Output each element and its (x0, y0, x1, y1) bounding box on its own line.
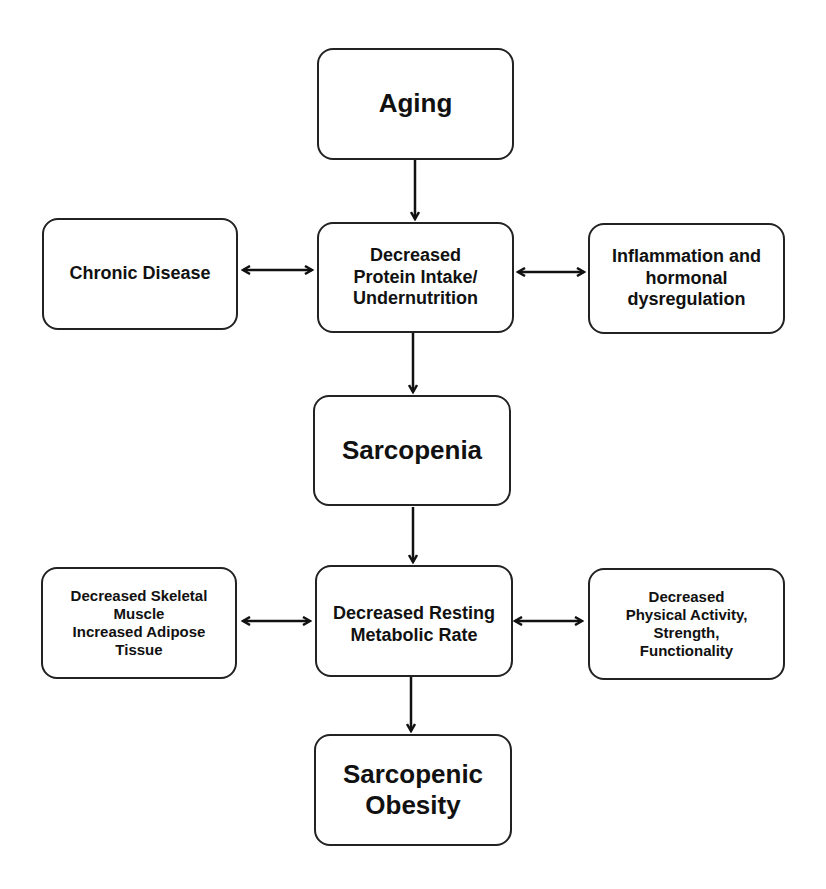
node-inflammation-line-3: dysregulation (612, 289, 761, 311)
node-obesity-line-2: Obesity (343, 790, 483, 821)
node-physical-line-1: Decreased (626, 588, 748, 606)
node-protein-intake: Decreased Protein Intake/ Undernutrition (317, 222, 514, 333)
node-obesity-line-1: Sarcopenic (343, 759, 483, 790)
node-physical-line-3: Strength, (626, 624, 748, 642)
node-metabolic-line-2: Metabolic Rate (333, 625, 495, 647)
node-inflammation-line-2: hormonal (612, 268, 761, 290)
node-aging: Aging (317, 48, 514, 160)
node-chronic-label: Chronic Disease (69, 263, 210, 285)
node-physical-line-2: Physical Activity, (626, 606, 748, 624)
node-skeletal-line-3: Increased Adipose (71, 623, 208, 641)
node-protein-line-1: Decreased (353, 245, 478, 267)
node-chronic-disease: Chronic Disease (42, 218, 238, 330)
node-protein-line-2: Protein Intake/ (353, 267, 478, 289)
node-inflammation: Inflammation and hormonal dysregulation (588, 223, 785, 334)
node-metabolic-line-1: Decreased Resting (333, 603, 495, 625)
node-sarcopenia: Sarcopenia (313, 395, 511, 506)
node-skeletal-line-1: Decreased Skeletal (71, 587, 208, 605)
node-protein-line-3: Undernutrition (353, 288, 478, 310)
node-sarcopenic-obesity: Sarcopenic Obesity (314, 734, 512, 846)
node-inflammation-line-1: Inflammation and (612, 246, 761, 268)
node-skeletal-line-4: Tissue (71, 641, 208, 659)
node-aging-label: Aging (379, 88, 453, 119)
node-metabolic-rate: Decreased Resting Metabolic Rate (315, 565, 513, 677)
node-skeletal-adipose: Decreased Skeletal Muscle Increased Adip… (41, 567, 237, 679)
node-physical-line-4: Functionality (626, 642, 748, 660)
node-skeletal-line-2: Muscle (71, 605, 208, 623)
node-sarcopenia-label: Sarcopenia (342, 435, 482, 466)
node-physical-activity: Decreased Physical Activity, Strength, F… (588, 568, 785, 680)
